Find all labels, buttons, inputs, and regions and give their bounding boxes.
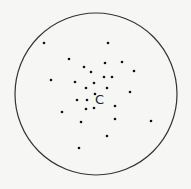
dot bbox=[104, 62, 107, 65]
dot bbox=[150, 120, 153, 123]
dot bbox=[129, 91, 132, 94]
center-label: C bbox=[95, 92, 104, 107]
dot bbox=[83, 66, 86, 69]
dot bbox=[50, 79, 53, 82]
diagram-canvas: C bbox=[0, 0, 191, 189]
dot bbox=[74, 81, 77, 84]
dot bbox=[106, 135, 109, 138]
dot bbox=[114, 118, 117, 121]
dot bbox=[80, 121, 83, 124]
dot bbox=[86, 99, 89, 102]
dot bbox=[43, 42, 46, 45]
dot bbox=[85, 87, 88, 90]
dot bbox=[93, 107, 96, 110]
dot bbox=[107, 42, 110, 45]
dot bbox=[103, 76, 106, 79]
dot bbox=[93, 82, 96, 85]
scatter-circle-diagram: C bbox=[0, 0, 191, 189]
dot bbox=[90, 71, 93, 74]
dot bbox=[133, 70, 136, 73]
dot bbox=[78, 147, 81, 150]
dot bbox=[68, 58, 71, 61]
dot bbox=[76, 99, 79, 102]
dot bbox=[106, 87, 109, 90]
dot bbox=[114, 105, 117, 108]
dot bbox=[85, 108, 88, 111]
dot bbox=[121, 61, 124, 64]
dot bbox=[111, 76, 114, 79]
dot bbox=[61, 111, 64, 114]
